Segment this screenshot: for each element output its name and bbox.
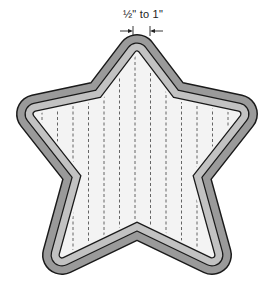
dimension-label: ½" to 1": [120, 8, 166, 20]
star-shape: [0, 0, 271, 287]
dimension-indicator: [120, 26, 163, 36]
star-binding-diagram: ½" to 1": [0, 0, 271, 287]
